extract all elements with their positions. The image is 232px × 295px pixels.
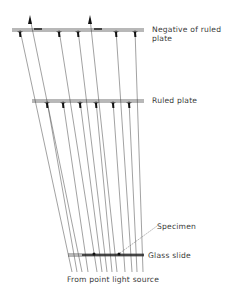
plates: [12, 29, 144, 256]
negative-rule-mark: [113, 32, 119, 38]
ray-line: [20, 30, 72, 272]
negative-plate-label-line2: plate: [152, 34, 221, 43]
negative-rule-mark: [75, 32, 81, 38]
negative-rule-mark: [56, 32, 62, 38]
arrow-up-icon: [88, 15, 92, 24]
ruled-plate-mark: [126, 103, 132, 109]
ray-line: [47, 101, 77, 272]
ruled-plate-mark: [93, 103, 99, 109]
shadow-projection-diagram: [0, 0, 232, 295]
ruled-plate-mark: [77, 103, 83, 109]
ray-line: [90, 18, 117, 272]
negative-plate-label-line1: Negative of ruled: [152, 25, 221, 34]
specimen-label: Specimen: [157, 222, 196, 231]
arrow-up-icon: [28, 15, 32, 24]
rule-marks: [17, 15, 138, 256]
ray-line: [59, 30, 97, 272]
light-source-label: From point light source: [67, 275, 159, 284]
ray-line: [135, 30, 143, 272]
ray-line: [116, 30, 132, 272]
negative-plate-label: Negative of ruled plate: [152, 25, 221, 43]
light-rays: [20, 18, 143, 272]
ray-line: [78, 30, 107, 272]
ruled-plate-mark: [44, 103, 50, 109]
specimen-leader-line: [120, 226, 157, 253]
ray-line: [30, 18, 82, 272]
specimen-dot: [93, 253, 96, 256]
glass-slide-label: Glass slide: [148, 251, 191, 260]
ruled-plate-label: Ruled plate: [152, 96, 197, 105]
negative-rule-mark: [132, 32, 138, 38]
ruled-plate-mark: [60, 103, 66, 109]
ray-line: [113, 101, 125, 272]
ruled-plate-mark: [110, 103, 116, 109]
negative-rule-mark: [17, 32, 23, 38]
